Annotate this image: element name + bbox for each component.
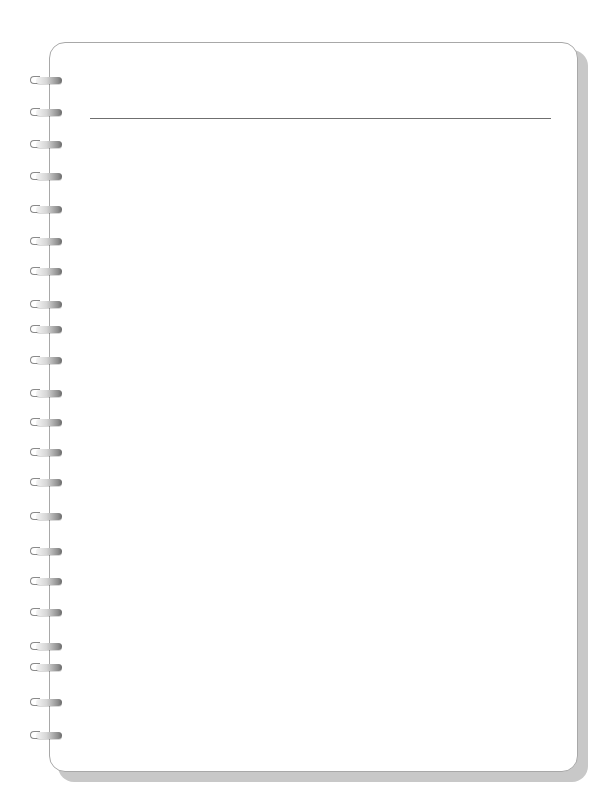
spiral-ring-icon [30,478,62,486]
ring-bar [36,643,62,650]
ring-bar [36,419,62,426]
spiral-ring-icon [30,172,62,180]
ring-bar [36,609,62,616]
ring-bar [36,664,62,671]
spiral-ring-icon [30,448,62,456]
spiral-ring-icon [30,267,62,275]
spiral-ring-icon [30,608,62,616]
ring-bar [36,206,62,213]
spiral-ring-icon [30,108,62,116]
ring-bar [36,390,62,397]
spiral-ring-icon [30,389,62,397]
ring-bar [36,513,62,520]
ring-bar [36,699,62,706]
spiral-ring-icon [30,418,62,426]
spiral-ring-icon [30,731,62,739]
ring-bar [36,578,62,585]
ring-bar [36,301,62,308]
spiral-ring-icon [30,205,62,213]
spiral-ring-icon [30,663,62,671]
spiral-ring-icon [30,356,62,364]
spiral-ring-icon [30,698,62,706]
spiral-ring-icon [30,76,62,84]
notebook-canvas [0,0,613,810]
spiral-ring-icon [30,547,62,555]
ring-bar [36,173,62,180]
header-rule-line [90,118,551,119]
spiral-ring-icon [30,512,62,520]
ring-bar [36,449,62,456]
spiral-ring-icon [30,642,62,650]
ring-bar [36,732,62,739]
ring-bar [36,238,62,245]
ring-bar [36,109,62,116]
spiral-ring-icon [30,325,62,333]
spiral-ring-icon [30,577,62,585]
ring-bar [36,141,62,148]
ring-bar [36,548,62,555]
ring-bar [36,357,62,364]
ring-bar [36,77,62,84]
ring-bar [36,479,62,486]
ring-bar [36,326,62,333]
notebook-page[interactable] [49,42,578,772]
spiral-ring-icon [30,140,62,148]
spiral-ring-icon [30,237,62,245]
ring-bar [36,268,62,275]
spiral-ring-icon [30,300,62,308]
